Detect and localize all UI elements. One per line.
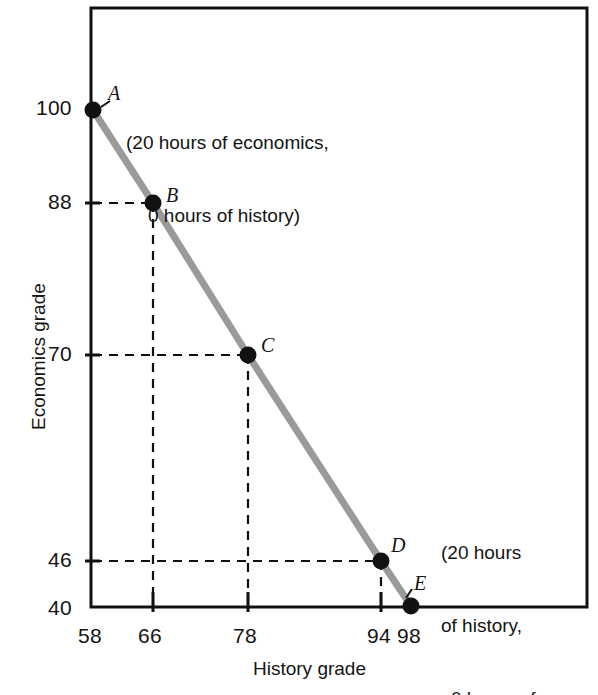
annotation-point-e-line1: (20 hours [441, 541, 538, 565]
point-label-e: E [414, 572, 426, 596]
x-tick-label-58: 58 [78, 624, 102, 649]
y-tick-label-100: 100 [36, 96, 72, 121]
annotation-point-a-line1: (20 hours of economics, [126, 131, 329, 155]
point-label-a: A [108, 82, 120, 106]
annotation-point-e-line2: of history, [441, 614, 538, 638]
data-point-d[interactable] [373, 553, 390, 570]
y-tick-label-70: 70 [48, 342, 72, 367]
annotation-point-e-line3: 0 hours of [441, 687, 538, 695]
x-tick-label-78: 78 [233, 624, 257, 649]
annotation-point-e: (20 hours of history, 0 hours of economi… [441, 492, 538, 695]
data-point-c[interactable] [240, 347, 257, 364]
x-tick-label-66: 66 [138, 624, 162, 649]
data-point-e[interactable] [403, 598, 420, 615]
x-axis-title: History grade [253, 658, 366, 680]
y-tick-label-46: 46 [48, 548, 72, 573]
point-label-d: D [391, 534, 405, 558]
annotation-point-a-line2: 0 hours of history) [126, 204, 329, 228]
annotation-point-a: (20 hours of economics, 0 hours of histo… [126, 82, 329, 277]
y-axis-title: Economics grade [28, 283, 50, 430]
point-label-c: C [261, 334, 274, 358]
data-point-a[interactable] [85, 102, 102, 119]
y-tick-label-40: 40 [48, 596, 72, 621]
y-tick-label-88: 88 [48, 190, 72, 215]
x-tick-label-94: 94 [367, 624, 391, 649]
ppf-chart: 100 88 70 46 40 Economics grade 58 66 78… [0, 0, 598, 695]
x-tick-label-98: 98 [397, 624, 421, 649]
